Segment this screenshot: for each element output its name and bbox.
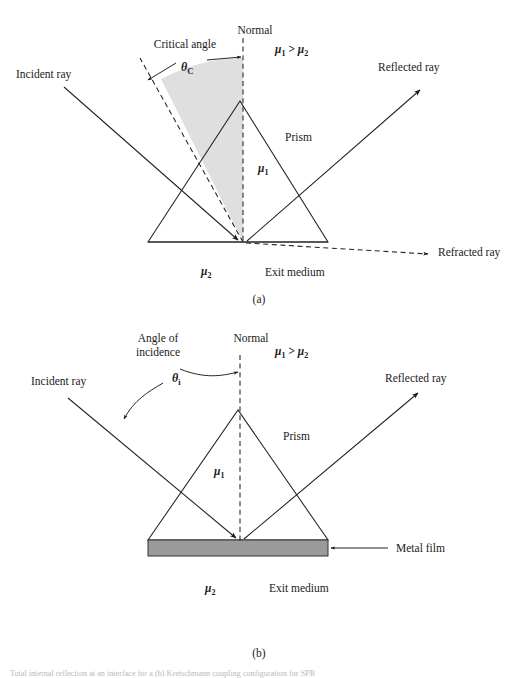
gt-glyph-b: >	[285, 345, 297, 357]
angle-of-incidence-label-line2: incidence	[136, 346, 180, 358]
incident-ray-b	[68, 398, 236, 538]
figure-root: Normal Critical angle θC μ1 > μ2 Inciden…	[0, 0, 525, 678]
theta-i-label: θi	[172, 371, 181, 387]
mu2-sub-b: 2	[211, 588, 215, 597]
angle-of-incidence-leader	[180, 369, 238, 376]
panel-a-group: Normal Critical angle θC μ1 > μ2 Inciden…	[16, 24, 501, 306]
angle-of-incidence-label-line1: Angle of	[138, 332, 179, 345]
exit-medium-label-b: Exit medium	[269, 582, 329, 594]
incident-ray-label-b: Incident ray	[31, 375, 86, 388]
index-relation-b: μ1 > μ2	[274, 345, 308, 360]
metal-film-label: Metal film	[396, 542, 445, 554]
refracted-ray-label-a: Refracted ray	[438, 246, 501, 259]
index-relation-a: μ1 > μ2	[274, 43, 308, 58]
prism-label-b: Prism	[283, 430, 310, 442]
mu1-sub-a: 1	[264, 168, 268, 177]
normal-label-a: Normal	[237, 24, 272, 36]
theta-i-subscript: i	[178, 377, 181, 387]
refracted-ray-a	[246, 243, 428, 254]
mu2-label-b: μ2	[204, 582, 215, 597]
mu1-sub-b: 1	[220, 471, 224, 480]
mu2-sub-rel-a: 2	[304, 49, 308, 58]
reflected-ray-b	[244, 393, 418, 539]
panel-label-b: (b)	[252, 647, 266, 660]
panel-b-group: Normal Angle of incidence θi μ1 > μ2 Inc…	[31, 332, 447, 660]
normal-label-b: Normal	[233, 332, 268, 344]
prism-label-a: Prism	[285, 131, 312, 143]
theta-c-subscript: C	[187, 66, 193, 76]
incident-ray-label-a: Incident ray	[16, 68, 71, 81]
mu2-sub-rel-b: 2	[304, 351, 308, 360]
figure-caption: Total internal reflection at an interfac…	[10, 669, 316, 678]
metal-film-rect	[148, 540, 328, 556]
mu1-label-a: μ1	[257, 162, 268, 177]
mu2-label-a: μ2	[200, 265, 211, 280]
mu1-label-b: μ1	[213, 465, 224, 480]
optics-figure-svg: Normal Critical angle θC μ1 > μ2 Inciden…	[0, 0, 525, 678]
exit-medium-label-a: Exit medium	[265, 266, 325, 278]
reflected-ray-a	[247, 90, 420, 241]
panel-label-a: (a)	[253, 293, 266, 306]
mu2-sub-a: 2	[207, 271, 211, 280]
critical-angle-cone	[161, 58, 243, 242]
reflected-ray-label-b: Reflected ray	[385, 372, 447, 385]
gt-glyph-a: >	[285, 43, 297, 55]
critical-angle-label: Critical angle	[154, 38, 216, 51]
theta-i-leader	[124, 383, 163, 419]
theta-c-label: θC	[181, 60, 193, 76]
reflected-ray-label-a: Reflected ray	[378, 61, 440, 74]
